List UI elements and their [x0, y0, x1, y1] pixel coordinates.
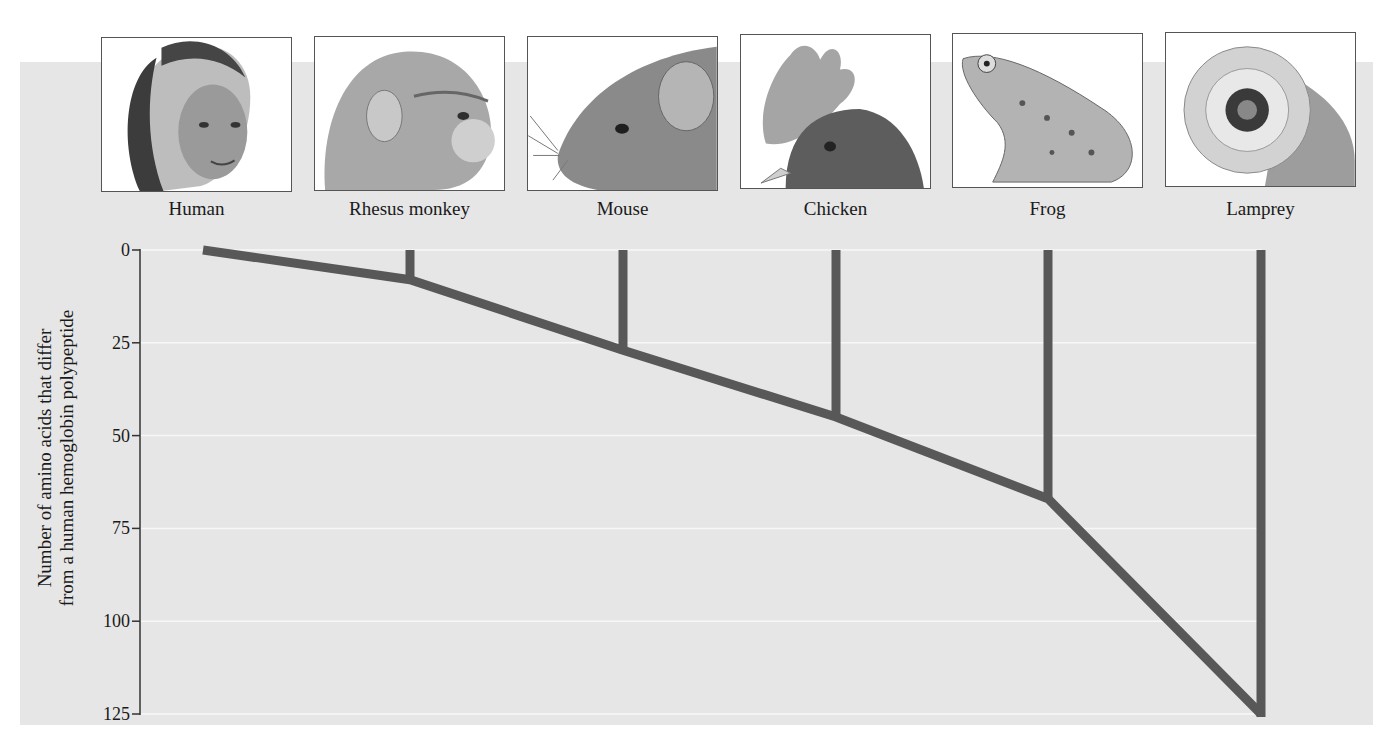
y-axis [132, 249, 140, 715]
gridlines [141, 250, 1262, 714]
tree-branches [203, 250, 1261, 717]
tree-trunk [203, 250, 1261, 714]
phylogenetic-tree-chart [0, 0, 1392, 752]
